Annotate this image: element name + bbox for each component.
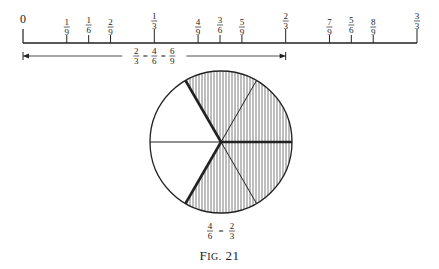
span-label-4-6: 46 — [151, 46, 157, 66]
circle-label-4-6: 46 — [207, 221, 213, 241]
tick-label-3-6: 36 — [217, 15, 223, 35]
svg-text:6: 6 — [208, 231, 213, 241]
svg-text:6: 6 — [152, 56, 157, 66]
svg-text:1: 1 — [86, 15, 91, 25]
arrowhead-right-icon — [280, 54, 286, 59]
svg-text:5: 5 — [349, 15, 354, 25]
svg-text:3: 3 — [415, 11, 420, 21]
tick-label-5-9: 59 — [239, 17, 245, 37]
tick-label-7-9: 79 — [326, 17, 332, 37]
svg-text:3: 3 — [134, 56, 139, 66]
figure-caption: FIG. 21 — [0, 248, 439, 264]
svg-text:9: 9 — [196, 27, 201, 37]
svg-text:8: 8 — [371, 17, 376, 27]
svg-text:1: 1 — [65, 17, 70, 27]
figure-21-diagram: 0191629134936592379568933 23=46=69 46=23 — [0, 0, 439, 269]
svg-text:1: 1 — [152, 11, 157, 21]
number-line: 0191629134936592379568933 — [20, 11, 420, 43]
svg-text:2: 2 — [230, 221, 235, 231]
svg-text:4: 4 — [196, 17, 201, 27]
caption-number: 21 — [226, 248, 240, 263]
svg-text:3: 3 — [415, 21, 420, 31]
tick-label-1-3: 13 — [151, 11, 157, 31]
circle-label-2-3: 23 — [229, 221, 235, 241]
arrowhead-left-icon — [23, 54, 29, 59]
svg-text:=: = — [161, 51, 166, 61]
svg-text:9: 9 — [108, 27, 113, 37]
svg-text:5: 5 — [240, 17, 245, 27]
svg-text:2: 2 — [283, 11, 288, 21]
tick-label-2-3: 23 — [283, 11, 289, 31]
tick-label-4-9: 49 — [195, 17, 201, 37]
zero-label: 0 — [20, 12, 26, 26]
tick-label-1-9: 19 — [64, 17, 70, 37]
svg-text:7: 7 — [327, 17, 332, 27]
svg-text:2: 2 — [134, 46, 139, 56]
svg-text:4: 4 — [208, 221, 213, 231]
caption-smallcaps: IG. — [207, 251, 222, 262]
tick-label-3-3: 33 — [414, 11, 420, 31]
svg-text:=: = — [218, 226, 223, 236]
fraction-circle — [150, 71, 292, 213]
svg-text:9: 9 — [371, 27, 376, 37]
svg-text:9: 9 — [240, 27, 245, 37]
span-arrow-two-thirds: 23=46=69 — [23, 46, 286, 66]
svg-text:=: = — [143, 51, 148, 61]
svg-text:6: 6 — [349, 25, 354, 35]
svg-text:3: 3 — [283, 21, 288, 31]
tick-label-5-6: 56 — [348, 15, 354, 35]
span-label-2-3: 23 — [133, 46, 139, 66]
tick-label-2-9: 29 — [108, 17, 114, 37]
svg-text:2: 2 — [108, 17, 113, 27]
svg-text:9: 9 — [65, 27, 70, 37]
circle-equation-label: 46=23 — [207, 221, 235, 241]
tick-label-8-9: 89 — [370, 17, 376, 37]
svg-text:3: 3 — [152, 21, 157, 31]
svg-text:6: 6 — [218, 25, 223, 35]
svg-text:6: 6 — [170, 46, 175, 56]
svg-text:9: 9 — [327, 27, 332, 37]
svg-text:4: 4 — [152, 46, 157, 56]
span-label-6-9: 69 — [169, 46, 175, 66]
svg-text:6: 6 — [86, 25, 91, 35]
svg-text:3: 3 — [230, 231, 235, 241]
svg-text:3: 3 — [218, 15, 223, 25]
svg-text:9: 9 — [170, 56, 175, 66]
tick-label-1-6: 16 — [86, 15, 92, 35]
